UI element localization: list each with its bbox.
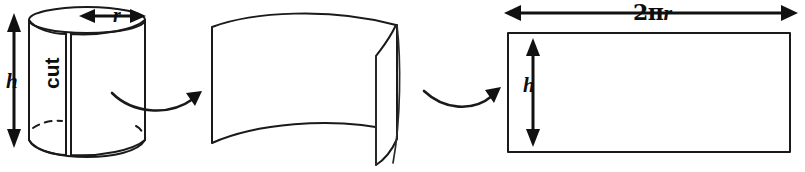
cylinder-panel (7, 7, 146, 157)
cylinder-unrolling-figure: h r cut 2πr h (0, 0, 805, 172)
rectangle-height-label: h (523, 75, 535, 96)
transform-arrow-2 (424, 87, 501, 107)
two-pi-prefix: 2 (633, 0, 648, 25)
cylinder-cut-label: cut (41, 67, 62, 89)
radius-variable: r (663, 0, 672, 25)
rectangle-width-label: 2πr (633, 1, 672, 24)
cylinder-height-label: h (6, 71, 18, 92)
unrolled-surface-panel (212, 13, 400, 165)
cylinder-radius-label: r (113, 5, 121, 25)
pi-symbol: π (648, 0, 664, 25)
cylinder-body-right (71, 20, 145, 155)
flattened-rectangle (508, 33, 790, 152)
rectangle-panel (504, 5, 798, 152)
unrolled-sheet-main (212, 13, 396, 143)
cylinder-top-ellipse (29, 7, 145, 33)
